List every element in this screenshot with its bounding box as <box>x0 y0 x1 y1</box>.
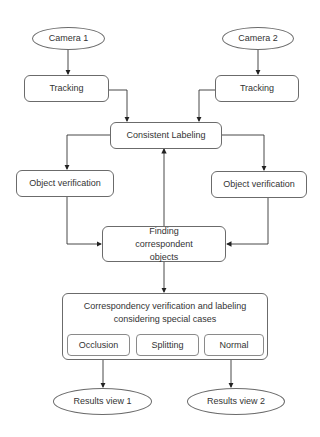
node-label: Results view 2 <box>207 395 265 408</box>
node-label: Object verification <box>29 177 101 190</box>
case-occlusion: Occlusion <box>67 334 130 356</box>
edge-objver1-finding <box>67 197 101 244</box>
node-label: Correspondency verification and labeling… <box>81 300 249 326</box>
edge-tracking1-consistent <box>109 90 127 121</box>
node-finding-correspondent-objects: Finding correspondent objects <box>102 226 226 262</box>
case-splitting: Splitting <box>136 334 199 356</box>
case-normal: Normal <box>204 334 264 356</box>
node-consistent-labeling: Consistent Labeling <box>110 122 222 149</box>
case-label: Occlusion <box>79 339 119 352</box>
node-results-view-1: Results view 1 <box>53 388 152 415</box>
case-label: Splitting <box>151 339 183 352</box>
node-tracking-1: Tracking <box>24 75 109 102</box>
node-object-verification-1: Object verification <box>16 170 114 197</box>
node-label: Tracking <box>240 82 274 95</box>
node-camera-1: Camera 1 <box>32 27 105 50</box>
node-label: Consistent Labeling <box>126 129 205 142</box>
edge-tracking2-consistent <box>199 90 215 121</box>
node-label: Finding correspondent objects <box>123 225 205 264</box>
node-results-view-2: Results view 2 <box>187 388 285 415</box>
connector-layer <box>0 0 320 437</box>
edge-consistent-objver1 <box>67 135 110 169</box>
node-tracking-2: Tracking <box>215 75 299 102</box>
flowchart-canvas: Camera 1 Camera 2 Tracking Tracking Cons… <box>0 0 320 437</box>
node-label: Camera 2 <box>238 32 278 45</box>
node-object-verification-2: Object verification <box>211 171 307 198</box>
edge-consistent-objver2 <box>222 135 264 170</box>
edge-objver2-finding <box>227 198 268 244</box>
node-label: Camera 1 <box>49 32 89 45</box>
node-label: Results view 1 <box>73 395 131 408</box>
node-label: Tracking <box>49 82 83 95</box>
node-label: Object verification <box>223 178 295 191</box>
case-label: Normal <box>219 339 248 352</box>
node-camera-2: Camera 2 <box>222 27 294 50</box>
